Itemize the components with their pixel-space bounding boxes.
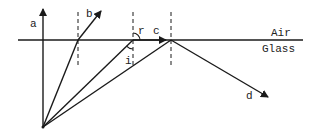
refraction-diagram: a b r c i d Air Glass	[0, 0, 321, 135]
label-glass: Glass	[262, 43, 295, 55]
label-b: b	[86, 8, 93, 20]
light-source-point	[42, 126, 45, 129]
ray-d-reflected	[171, 40, 268, 97]
label-i: i	[125, 55, 132, 67]
label-air: Air	[271, 27, 291, 39]
diagram-canvas: a b r c i d Air Glass	[0, 0, 321, 135]
ray-c-incident	[43, 40, 133, 127]
ray-b-incident	[43, 40, 78, 127]
ray-d-incident	[43, 40, 171, 127]
label-r: r	[138, 25, 145, 37]
label-d: d	[246, 90, 253, 102]
label-a: a	[30, 18, 37, 30]
angle-arc-i	[127, 46, 134, 49]
label-c: c	[153, 25, 160, 37]
